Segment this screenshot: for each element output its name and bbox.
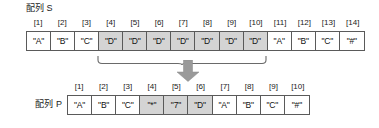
array-p-cell: "A" — [68, 96, 92, 114]
array-p-index-label: [8] — [237, 82, 261, 92]
array-p-cell: "#" — [285, 96, 309, 114]
array-s-cell: "D" — [171, 32, 195, 50]
array-p-index-label: [9] — [261, 82, 285, 92]
array-p-index-label: [1] — [67, 82, 91, 92]
array-p-index-label: [2] — [91, 82, 115, 92]
array-s-index-label: [14] — [341, 18, 365, 28]
array-s-cell: "D" — [195, 32, 219, 50]
array-p-cell: "B" — [237, 96, 261, 114]
array-s-cell: "B" — [51, 32, 75, 50]
array-s-cell: "D" — [99, 32, 123, 50]
array-s-index-label: [11] — [268, 18, 292, 28]
transform-down-arrow — [176, 60, 200, 82]
array-s-index-label: [6] — [147, 18, 171, 28]
array-s-index-label: [10] — [244, 18, 268, 28]
array-p-title: 配列 P — [22, 99, 62, 110]
array-transformation-diagram: 配列 S [1][2][3][4][5][6][7][8][9][10][11]… — [0, 0, 379, 128]
array-s-cell: "C" — [75, 32, 99, 50]
arrow-down-icon — [176, 60, 200, 82]
array-p-cell: "*" — [140, 96, 164, 114]
array-p-cell: "D" — [188, 96, 212, 114]
array-s-range-brace — [97, 51, 267, 60]
array-s-index-row: [1][2][3][4][5][6][7][8][9][10][11][12][… — [26, 18, 365, 28]
array-s-index-label: [12] — [292, 18, 316, 28]
array-s-cell: "D" — [220, 32, 244, 50]
array-s-cell: "C" — [316, 32, 340, 50]
array-p-cell: "C" — [116, 96, 140, 114]
array-p-index-label: [3] — [116, 82, 140, 92]
array-s-title: 配列 S — [26, 3, 53, 14]
array-p-cell: "C" — [261, 96, 285, 114]
array-s-index-label: [7] — [171, 18, 195, 28]
array-s-cell: "A" — [27, 32, 51, 50]
array-s-index-label: [8] — [195, 18, 219, 28]
array-s-index-label: [3] — [74, 18, 98, 28]
array-s-cell-row: "A""B""C""D""D""D""D""D""D""D""A""B""C""… — [26, 31, 365, 51]
array-s-cell: "D" — [123, 32, 147, 50]
array-s-cell: "D" — [244, 32, 268, 50]
array-p-index-label: [10] — [286, 82, 310, 92]
array-s-cell: "D" — [147, 32, 171, 50]
array-p-index-label: [5] — [164, 82, 188, 92]
array-p-cell: "A" — [213, 96, 237, 114]
array-p-cell: "B" — [92, 96, 116, 114]
array-s-index-label: [5] — [123, 18, 147, 28]
array-p-cell: "7" — [164, 96, 188, 114]
array-s-index-label: [1] — [26, 18, 50, 28]
array-s-cell: "B" — [292, 32, 316, 50]
array-s-index-label: [4] — [99, 18, 123, 28]
array-p-block: 配列 P [1][2][3][4][5][6][7][8][9][10] "A"… — [0, 82, 379, 128]
array-p-index-label: [7] — [213, 82, 237, 92]
array-s-index-label: [13] — [316, 18, 340, 28]
array-s-index-label: [9] — [220, 18, 244, 28]
array-s-cell: "A" — [268, 32, 292, 50]
array-p-index-label: [6] — [188, 82, 212, 92]
array-p-index-label: [4] — [140, 82, 164, 92]
array-s-index-label: [2] — [50, 18, 74, 28]
array-p-index-row: [1][2][3][4][5][6][7][8][9][10] — [67, 82, 310, 92]
array-s-cell: "#" — [340, 32, 364, 50]
array-p-cell-row: "A""B""C""*""7""D""A""B""C""#" — [67, 95, 310, 115]
array-s-block: 配列 S [1][2][3][4][5][6][7][8][9][10][11]… — [0, 0, 379, 58]
